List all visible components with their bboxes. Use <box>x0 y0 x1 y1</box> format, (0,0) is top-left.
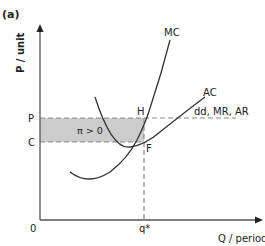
demand-label: dd, MR, AR <box>194 106 249 117</box>
origin-label: 0 <box>30 223 36 234</box>
mc-label: MC <box>164 27 180 38</box>
x-axis-arrow-icon <box>255 217 263 224</box>
y-axis-label: P / unit <box>15 32 26 73</box>
mc-curve <box>70 40 170 179</box>
panel-label: (a) <box>2 8 19 21</box>
cost-label: C <box>28 137 35 148</box>
ac-label: AC <box>203 87 217 98</box>
point-f-label: F <box>146 143 152 154</box>
price-label: P <box>28 113 34 124</box>
x-axis-label: Q / period <box>218 233 265 244</box>
point-h-label: H <box>137 106 145 117</box>
y-axis-arrow-icon <box>37 24 44 32</box>
quantity-label: q* <box>139 223 150 234</box>
profit-label: π > 0 <box>77 125 103 136</box>
firm-profit-diagram: (a) P / unit Q / period 0 P C q* H F π >… <box>0 0 265 246</box>
